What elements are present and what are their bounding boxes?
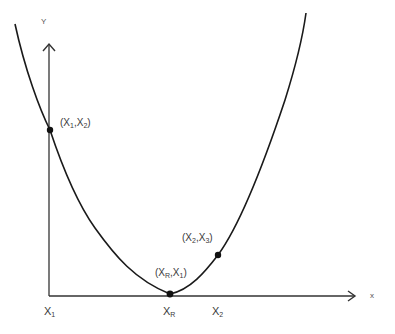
x-tick-label-x1: X1 bbox=[44, 306, 55, 318]
point-xr-x1 bbox=[167, 291, 174, 298]
x-tick-label-xr: XR bbox=[163, 306, 175, 318]
y-axis-label: Y bbox=[41, 18, 46, 26]
diagram-canvas bbox=[0, 0, 395, 334]
point-label-x2-x3: (X2,X3) bbox=[182, 233, 213, 244]
point-label-x1-x2: (X1,X2) bbox=[60, 118, 91, 129]
x-tick-label-x2: X2 bbox=[212, 306, 223, 318]
point-label-xr-x1: (XR,X1) bbox=[155, 268, 187, 279]
x-axis-label: x bbox=[370, 292, 374, 300]
point-x2-x3 bbox=[215, 252, 221, 258]
function-curve bbox=[15, 13, 306, 294]
point-x1-x2 bbox=[47, 127, 53, 133]
